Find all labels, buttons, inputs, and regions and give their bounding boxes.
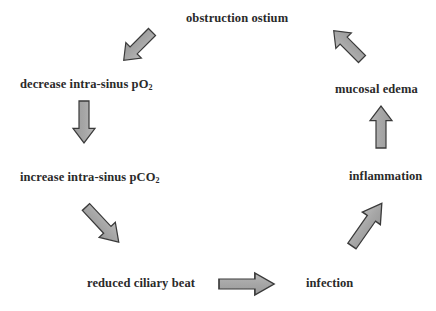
node-inflammation: inflammation — [349, 169, 422, 184]
node-text: inflammation — [349, 169, 422, 183]
node-text: infection — [306, 276, 353, 290]
node-obstruction-ostium: obstruction ostium — [186, 11, 288, 26]
arrow-up-left-icon — [326, 23, 370, 67]
node-increase-pco2: increase intra-sinus pCO2 — [20, 170, 160, 185]
arrow-down-left-icon — [116, 24, 160, 68]
node-text: obstruction ostium — [186, 11, 288, 25]
node-mucosal-edema: mucosal edema — [335, 82, 418, 97]
arrow-down-icon — [73, 101, 95, 143]
node-subscript: 2 — [148, 83, 152, 92]
node-text: mucosal edema — [335, 82, 418, 96]
node-infection: infection — [306, 276, 353, 291]
arrows-layer — [0, 0, 436, 311]
node-reduced-ciliary-beat: reduced ciliary beat — [87, 276, 195, 291]
node-subscript: 2 — [156, 176, 160, 185]
node-text: decrease intra-sinus pO — [20, 77, 148, 91]
node-text: increase intra-sinus pCO — [20, 170, 156, 184]
node-text: reduced ciliary beat — [87, 276, 195, 290]
arrow-down-right-icon — [78, 199, 127, 249]
arrow-up-right-icon — [343, 197, 391, 252]
arrow-up-icon — [370, 106, 392, 148]
node-decrease-po2: decrease intra-sinus pO2 — [20, 77, 153, 92]
arrow-right-icon — [219, 273, 274, 295]
